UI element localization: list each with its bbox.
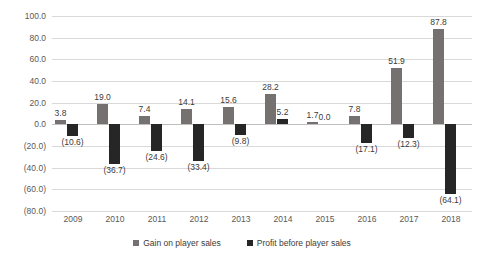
data-label: 3.8 [38,109,84,118]
x-axis-label-2012: 2012 [178,214,220,224]
x-axis-label-2014: 2014 [262,214,304,224]
bar-gain[interactable] [307,122,318,124]
data-label: 14.1 [164,98,210,107]
bar-profit[interactable] [403,124,414,137]
bar-gain[interactable] [181,109,192,124]
y-axis-tick-label: 20.0 [0,99,46,107]
bar-profit[interactable] [235,124,246,135]
x-axis-label-2009: 2009 [52,214,94,224]
y-axis-tick-label: 40.0 [0,77,46,85]
bar-profit[interactable] [361,124,372,143]
data-label: 87.8 [416,18,462,27]
y-axis-tick-label: 0.0 [0,120,46,128]
bar-profit[interactable] [151,124,162,151]
bar-profit[interactable] [193,124,204,160]
data-label: 7.4 [122,105,168,114]
legend-item-gain[interactable]: Gain on player sales [133,238,221,248]
bar-group [388,16,430,211]
data-label: (10.6) [50,138,96,147]
legend-swatch-icon [133,240,139,246]
y-axis-tick-label: 80.0 [0,34,46,42]
x-axis-label-2017: 2017 [388,214,430,224]
data-label: 15.6 [206,96,252,105]
data-label: 51.9 [374,57,420,66]
bar-gain[interactable] [223,107,234,124]
x-axis-label-2013: 2013 [220,214,262,224]
y-axis-tick-label: 100.0 [0,12,46,20]
bar-profit[interactable] [445,124,456,193]
bar-group [430,16,472,211]
bar-group [178,16,220,211]
bar-profit[interactable] [67,124,78,135]
data-label: (33.4) [176,163,222,172]
data-label: (24.6) [134,153,180,162]
x-axis-label-2010: 2010 [94,214,136,224]
bar-gain[interactable] [391,68,402,124]
legend-label: Profit before player sales [257,238,351,248]
y-axis-tick-label: 60.0 [0,55,46,63]
bar-gain[interactable] [139,116,150,124]
legend-swatch-icon [247,240,253,246]
gridline [52,211,472,212]
data-label: (9.8) [218,137,264,146]
data-label: 19.0 [80,93,126,102]
bar-gain[interactable] [55,120,66,124]
data-label: (36.7) [92,166,138,175]
data-label: (12.3) [386,140,432,149]
data-label: (64.1) [428,196,474,205]
bar-profit[interactable] [277,119,288,125]
y-axis-tick-label: (40.0) [0,164,46,172]
bar-group [220,16,262,211]
chart-legend: Gain on player salesProfit before player… [0,238,484,248]
y-axis-tick-label: (60.0) [0,185,46,193]
x-axis-label-2011: 2011 [136,214,178,224]
bar-gain[interactable] [97,104,108,125]
data-label: (17.1) [344,145,390,154]
y-axis-tick-label: (80.0) [0,207,46,215]
plot-area: 3.8(10.6)19.0(36.7)7.4(24.6)14.1(33.4)15… [52,16,472,211]
bar-chart: 3.8(10.6)19.0(36.7)7.4(24.6)14.1(33.4)15… [0,0,484,260]
data-label: 28.2 [248,83,294,92]
bar-gain[interactable] [433,29,444,124]
data-label: 0.0 [302,113,348,122]
x-axis-label-2015: 2015 [304,214,346,224]
bar-gain[interactable] [349,116,360,124]
x-axis-labels: 2009201020112012201320142015201620172018 [52,214,472,228]
bar-profit[interactable] [109,124,120,164]
legend-label: Gain on player sales [143,238,221,248]
x-axis-label-2016: 2016 [346,214,388,224]
data-label: 7.8 [332,105,378,114]
x-axis-label-2018: 2018 [430,214,472,224]
y-axis-tick-label: (20.0) [0,142,46,150]
legend-item-profit[interactable]: Profit before player sales [247,238,351,248]
